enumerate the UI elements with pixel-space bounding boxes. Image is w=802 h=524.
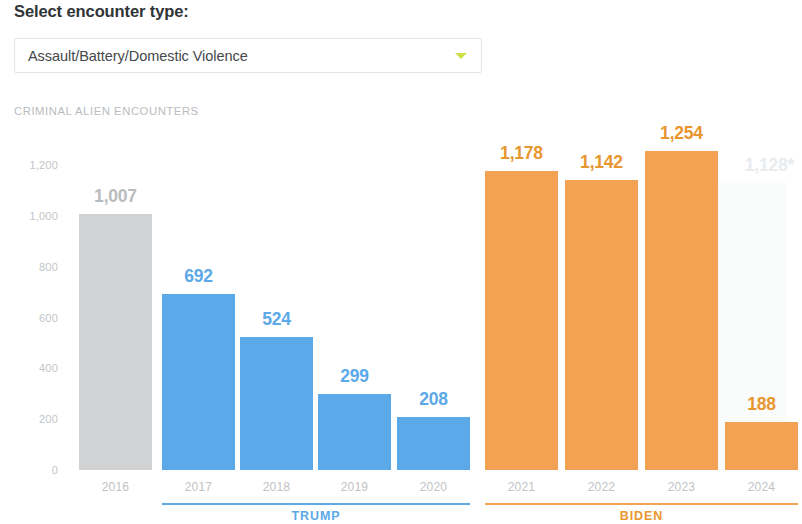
x-axis-tick-label-2019: 2019 (318, 480, 391, 494)
x-axis-tick-label-2021: 2021 (485, 480, 558, 494)
x-axis-tick-label-2017: 2017 (162, 480, 235, 494)
group-label-biden: BIDEN (485, 509, 798, 523)
y-axis-tick-label: 800 (0, 261, 58, 273)
y-axis-tick-label: 1,000 (0, 210, 58, 222)
bar-value-label-2016: 1,007 (79, 186, 152, 207)
bar-2022[interactable] (565, 180, 638, 470)
y-axis-tick-label: 1,200 (0, 159, 58, 171)
group-rule-biden (485, 503, 798, 505)
bar-2019[interactable] (318, 394, 391, 470)
bar-2017[interactable] (162, 294, 235, 470)
bar-projection-label-2024: 1,128* (732, 155, 802, 176)
bar-value-label-2022: 1,142 (565, 152, 638, 173)
bar-value-label-2018: 524 (240, 309, 313, 330)
x-axis-tick-label-2022: 2022 (565, 480, 638, 494)
y-axis-tick-label: 400 (0, 362, 58, 374)
bar-2016[interactable] (79, 214, 152, 470)
bar-2018[interactable] (240, 337, 313, 470)
y-axis-tick-label: 600 (0, 312, 58, 324)
bar-2020[interactable] (397, 417, 470, 470)
bar-2024[interactable] (725, 422, 798, 470)
x-axis-tick-label-2016: 2016 (79, 480, 152, 494)
bar-value-label-2020: 208 (397, 389, 470, 410)
x-axis-tick-label-2024: 2024 (725, 480, 798, 494)
group-rule-trump (162, 503, 470, 505)
bar-2021[interactable] (485, 171, 558, 470)
x-axis-tick-label-2018: 2018 (240, 480, 313, 494)
bar-value-label-2019: 299 (318, 366, 391, 387)
bar-value-label-2021: 1,178 (485, 143, 558, 164)
x-axis-tick-label-2023: 2023 (645, 480, 718, 494)
y-axis-tick-label: 200 (0, 413, 58, 425)
x-axis-tick-label-2020: 2020 (397, 480, 470, 494)
bar-value-label-2017: 692 (162, 266, 235, 287)
bar-2023[interactable] (645, 151, 718, 470)
bar-value-label-2024: 188 (725, 394, 798, 415)
group-label-trump: TRUMP (162, 509, 470, 523)
bar-value-label-2023: 1,254 (645, 123, 718, 144)
y-axis-tick-label: 0 (0, 464, 58, 476)
